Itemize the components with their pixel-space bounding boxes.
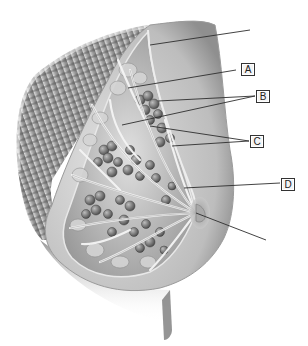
label-a: A — [241, 63, 255, 76]
label-b: B — [256, 90, 270, 103]
label-d: D — [281, 178, 295, 191]
nipple-areola — [190, 197, 210, 229]
label-c: C — [250, 135, 264, 148]
breast-anatomy-illustration — [0, 0, 308, 346]
